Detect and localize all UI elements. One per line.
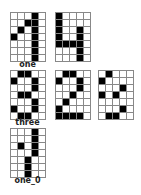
pixel-off xyxy=(18,78,24,84)
pixel-on xyxy=(32,136,38,142)
pixel-off xyxy=(25,106,31,112)
pixel-off xyxy=(70,34,76,40)
pixel-on xyxy=(113,113,119,119)
pixel-off xyxy=(18,164,24,170)
pixel-off xyxy=(39,78,45,84)
pixel-on xyxy=(32,150,38,156)
digit-sample-one[interactable]: one xyxy=(10,12,46,62)
digit-sample-three[interactable]: three xyxy=(10,70,46,120)
pixel-off xyxy=(106,78,112,84)
pixel-off xyxy=(70,85,76,91)
pixel-off xyxy=(18,99,24,105)
pixel-on xyxy=(32,99,38,105)
pixel-off xyxy=(11,92,17,98)
pixel-off xyxy=(11,13,17,19)
pixel-off xyxy=(106,85,112,91)
pixel-off xyxy=(39,150,45,156)
pixel-off xyxy=(99,113,105,119)
pixel-off xyxy=(70,99,76,105)
pixel-off xyxy=(84,113,90,119)
pixel-off xyxy=(11,41,17,47)
pixel-off xyxy=(70,78,76,84)
pixel-off xyxy=(120,78,126,84)
pixel-off xyxy=(18,85,24,91)
pixel-grid xyxy=(10,70,46,120)
pixel-off xyxy=(99,106,105,112)
pixel-on xyxy=(32,13,38,19)
digit-sample-one-0[interactable]: one_0 xyxy=(10,128,46,178)
pixel-on xyxy=(77,113,83,119)
pixel-off xyxy=(18,41,24,47)
digit-sample-two[interactable] xyxy=(55,70,91,120)
pixel-off xyxy=(11,150,17,156)
pixel-off xyxy=(70,27,76,33)
pixel-off xyxy=(25,99,31,105)
pixel-off xyxy=(84,13,90,19)
pixel-on xyxy=(63,113,69,119)
pixel-on xyxy=(25,20,31,26)
pixel-off xyxy=(39,13,45,19)
pixel-on xyxy=(18,27,24,33)
pixel-off xyxy=(56,48,62,54)
pixel-off xyxy=(84,85,90,91)
pixel-off xyxy=(25,136,31,142)
pixel-on xyxy=(77,78,83,84)
pixel-off xyxy=(77,106,83,112)
pixel-off xyxy=(39,164,45,170)
pixel-off xyxy=(113,106,119,112)
pixel-off xyxy=(39,129,45,135)
pixel-off xyxy=(127,85,133,91)
pixel-on xyxy=(56,106,62,112)
pixel-off xyxy=(18,136,24,142)
pixel-off xyxy=(11,85,17,91)
pixel-on xyxy=(99,92,105,98)
pixel-on xyxy=(63,41,69,47)
pixel-on xyxy=(25,71,31,77)
pixel-off xyxy=(39,85,45,91)
pixel-on xyxy=(18,71,24,77)
pixel-on xyxy=(63,71,69,77)
digit-sample-four[interactable] xyxy=(55,12,91,62)
pixel-on xyxy=(77,48,83,54)
pixel-off xyxy=(127,113,133,119)
pixel-grid xyxy=(98,70,134,120)
pixel-on xyxy=(120,85,126,91)
pixel-off xyxy=(11,129,17,135)
pixel-off xyxy=(63,48,69,54)
pixel-on xyxy=(32,41,38,47)
pixel-off xyxy=(120,92,126,98)
pixel-on xyxy=(18,143,24,149)
pixel-on xyxy=(11,34,17,40)
pixel-off xyxy=(18,48,24,54)
pixel-on xyxy=(32,48,38,54)
pixel-on xyxy=(56,20,62,26)
pixel-off xyxy=(127,71,133,77)
pixel-off xyxy=(84,48,90,54)
pixel-on xyxy=(77,85,83,91)
pixel-off xyxy=(11,143,17,149)
pixel-on xyxy=(32,85,38,91)
pixel-off xyxy=(56,85,62,91)
pixel-off xyxy=(77,13,83,19)
pixel-on xyxy=(11,106,17,112)
pixel-off xyxy=(39,143,45,149)
pixel-on xyxy=(106,71,112,77)
pixel-on xyxy=(18,92,24,98)
pixel-off xyxy=(127,78,133,84)
pixel-off xyxy=(70,48,76,54)
pixel-off xyxy=(25,27,31,33)
pixel-off xyxy=(120,113,126,119)
pixel-off xyxy=(56,71,62,77)
pixel-off xyxy=(39,48,45,54)
pixel-off xyxy=(25,129,31,135)
pixel-off xyxy=(39,106,45,112)
pixel-off xyxy=(18,34,24,40)
pixel-off xyxy=(77,20,83,26)
pixel-off xyxy=(127,106,133,112)
pixel-off xyxy=(77,92,83,98)
pixel-on xyxy=(56,113,62,119)
digit-sample-noisy[interactable] xyxy=(98,70,134,120)
pixel-off xyxy=(63,27,69,33)
pixel-on xyxy=(32,34,38,40)
pixel-on xyxy=(106,113,112,119)
